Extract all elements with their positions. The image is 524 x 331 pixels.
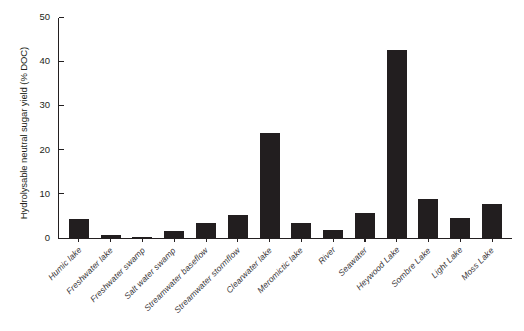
bar-slot xyxy=(63,18,95,238)
bar-slot xyxy=(127,18,159,238)
bar-chart-figure: Hydrolysable neutral sugar yield (% DOC)… xyxy=(0,0,524,331)
bar xyxy=(418,199,438,238)
bar-slot xyxy=(285,18,317,238)
bar xyxy=(355,213,375,238)
bar-slot xyxy=(381,18,413,238)
bar-slot xyxy=(158,18,190,238)
y-axis-tick-label: 50 xyxy=(39,10,50,23)
x-axis-tick-mark xyxy=(78,238,79,242)
bar xyxy=(387,50,407,238)
x-axis-tick-mark xyxy=(142,238,143,242)
x-axis-label: Freshwater swamp xyxy=(88,245,147,304)
bar-slot xyxy=(444,18,476,238)
x-axis-tick-mark xyxy=(396,238,397,242)
x-axis-tick-mark xyxy=(110,238,111,242)
x-axis-tick-mark xyxy=(364,238,365,242)
y-axis-tick-label: 0 xyxy=(45,231,50,244)
bar-slot xyxy=(476,18,508,238)
x-axis-tick-mark xyxy=(237,238,238,242)
x-axis-tick-mark xyxy=(269,238,270,242)
x-axis-tick-mark xyxy=(301,238,302,242)
x-axis-tick-mark xyxy=(174,238,175,242)
bar-slot xyxy=(254,18,286,238)
y-axis-tick-label: 40 xyxy=(39,54,50,67)
y-axis-tick-label: 30 xyxy=(39,98,50,111)
y-axis-tick-label: 20 xyxy=(39,143,50,156)
x-axis-label: Moss Lake xyxy=(459,245,496,282)
bar-slot xyxy=(349,18,381,238)
x-axis-tick-mark xyxy=(492,238,493,242)
bar-slot xyxy=(317,18,349,238)
plot-area: 01020304050 xyxy=(58,18,512,239)
bar xyxy=(260,133,280,238)
bar xyxy=(228,215,248,238)
y-axis-tick-label: 10 xyxy=(39,187,50,200)
bars-container xyxy=(59,18,512,238)
x-axis-tick-mark xyxy=(206,238,207,242)
x-axis-tick-mark xyxy=(460,238,461,242)
bar-slot xyxy=(95,18,127,238)
bar-slot xyxy=(413,18,445,238)
bar-slot xyxy=(222,18,254,238)
bar xyxy=(450,218,470,238)
bar xyxy=(323,230,343,238)
x-axis-tick-mark xyxy=(333,238,334,242)
bar xyxy=(164,231,184,239)
y-axis-title: Hydrolysable neutral sugar yield (% DOC) xyxy=(14,8,34,258)
bar xyxy=(482,204,502,238)
x-axis-label: River xyxy=(316,245,337,266)
bar xyxy=(69,219,89,238)
x-axis-tick-mark xyxy=(428,238,429,242)
bar xyxy=(196,223,216,238)
bar-slot xyxy=(190,18,222,238)
x-axis-labels: Humic lakeFreshwater lakeFreshwater swam… xyxy=(58,243,512,331)
bar xyxy=(291,223,311,238)
